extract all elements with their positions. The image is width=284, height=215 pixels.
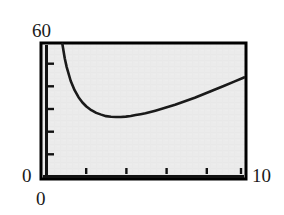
y-axis-max-label: 60 [32,21,51,40]
paper-texture [41,43,246,179]
x-axis-max-label: 10 [252,166,271,185]
x-axis-zero-label: 0 [36,189,46,208]
y-axis-zero-label: 0 [22,166,32,185]
figure-container: 60 0 0 10 [0,0,284,215]
